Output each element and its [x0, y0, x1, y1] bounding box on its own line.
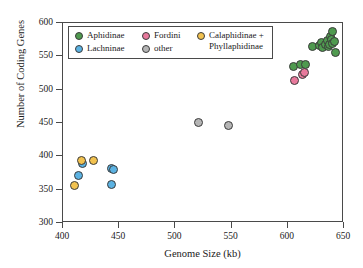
legend-swatch-icon [75, 45, 83, 53]
legend-entry: other [142, 43, 173, 54]
legend-swatch-icon [142, 32, 150, 40]
x-tick-mark [174, 222, 175, 228]
x-tick-mark [231, 222, 232, 228]
x-tick-label: 400 [45, 231, 79, 241]
legend-entry: Fordini [142, 30, 181, 41]
data-point [224, 121, 233, 130]
data-point [107, 180, 116, 189]
legend-label: other [154, 43, 173, 54]
legend-label: Lachninae [87, 43, 124, 54]
data-point [330, 37, 339, 46]
x-tick-label: 450 [101, 231, 135, 241]
y-tick-label: 350 [26, 184, 53, 194]
data-point [89, 156, 98, 165]
data-point [331, 48, 340, 57]
legend: AphidinaeLachninaeFordiniotherCalaphidin… [68, 26, 273, 59]
legend-label: Calaphidinae + Phyllaphidinae [209, 30, 264, 52]
y-tick-mark [56, 122, 62, 123]
y-tick-label: 600 [26, 17, 53, 27]
x-tick-label: 550 [214, 231, 248, 241]
data-point [77, 156, 86, 165]
x-tick-mark [343, 222, 344, 228]
x-tick-mark [62, 222, 63, 228]
scatter-chart-figure: Number of Coding Genes Genome Size (kb) … [0, 0, 363, 268]
y-tick-mark [56, 89, 62, 90]
legend-swatch-icon [75, 32, 83, 40]
y-tick-label: 400 [26, 150, 53, 160]
y-tick-mark [56, 189, 62, 190]
legend-entry: Lachninae [75, 43, 124, 54]
legend-label: Aphidinae [87, 30, 125, 41]
data-point [70, 181, 79, 190]
data-point [109, 165, 118, 174]
x-tick-label: 650 [326, 231, 360, 241]
x-axis-label: Genome Size (kb) [62, 248, 343, 259]
data-point [300, 68, 309, 77]
x-tick-label: 600 [270, 231, 304, 241]
legend-label: Fordini [154, 30, 181, 41]
legend-swatch-icon [197, 32, 205, 40]
y-tick-mark [56, 55, 62, 56]
y-tick-label: 300 [26, 217, 53, 227]
x-tick-mark [287, 222, 288, 228]
data-point [194, 118, 203, 127]
x-tick-mark [118, 222, 119, 228]
y-tick-label: 500 [26, 84, 53, 94]
y-tick-mark [56, 22, 62, 23]
legend-swatch-icon [142, 45, 150, 53]
x-tick-label: 500 [157, 231, 191, 241]
y-tick-label: 550 [26, 50, 53, 60]
y-tick-mark [56, 155, 62, 156]
y-tick-label: 450 [26, 117, 53, 127]
legend-entry: Aphidinae [75, 30, 125, 41]
legend-entry: Calaphidinae + Phyllaphidinae [197, 30, 264, 52]
